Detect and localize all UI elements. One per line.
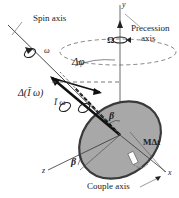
omega-precession-label: Ω xyxy=(107,36,114,45)
spin-axis-line xyxy=(8,25,120,135)
beta-top-label: β xyxy=(109,111,114,121)
spin-axis-label: Spin axis xyxy=(33,14,66,23)
y-axis-arrow-icon xyxy=(117,20,123,28)
x-axis-label: x xyxy=(168,169,172,177)
delta-phi-label: Δφ xyxy=(72,56,85,67)
delta-angular-momentum-label: Δ(Ī ω) xyxy=(18,88,43,98)
angular-momentum-label: Ī ω xyxy=(54,98,66,107)
omega-spin-label: ω xyxy=(44,47,50,55)
y-axis-label: y xyxy=(122,1,126,9)
precession-axis-label-line1: Precession xyxy=(131,24,170,33)
z-axis-label: z xyxy=(42,167,45,175)
couple-axis-label: Couple axis xyxy=(87,182,130,191)
gyroscope-precession-diagram: Spin axis y Precession axis Ω ω Δφ Δ(Ī ω… xyxy=(0,0,179,198)
beta-bottom-label: β xyxy=(71,157,76,167)
moment-impulse-label: MΔt xyxy=(143,138,160,147)
spin-curl-icon xyxy=(23,47,37,60)
precession-axis-label-line2: axis xyxy=(141,34,156,43)
